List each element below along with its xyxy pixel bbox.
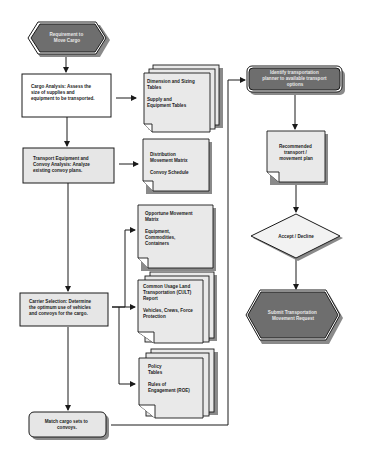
edge-carrier-selection-to-opportune-matrix [112,230,135,307]
node-cult-report[interactable]: Common Usage Land Transportation (CULT) … [138,272,217,343]
node-distribution-matrix[interactable]: Distribution Movement Matrix Convoy Sche… [143,139,212,194]
node-start[interactable]: Requirement to Move Cargo [28,22,110,57]
node-cargo-analysis[interactable]: Cargo Analysis: Assess the size of suppl… [22,74,111,117]
node-recommended-plan-label: Recommended transport / movement plan [279,144,313,161]
node-dimension-tables[interactable]: Dimension and Sizing Tables Supply and E… [144,65,223,132]
node-identify-planner[interactable]: Identify transportation planner to avail… [247,66,345,95]
node-carrier-selection[interactable]: Carrier Selection: Determine the optimum… [20,293,108,326]
flowchart: Requirement to Move Cargo Cargo Analysis… [0,0,365,463]
node-start-label: Requirement to Move Cargo [50,32,85,43]
edge-carrier-selection-to-policy-tables [119,307,135,384]
node-transport-equipment[interactable]: Transport Equipment and Convoy Analysis:… [23,148,114,183]
node-submit-request-label: Submit Transportation Movement Request [268,310,318,321]
node-accept-decline[interactable]: Accept / Decline [251,214,343,261]
node-match-cargo[interactable]: Match cargo sets to convoys. [29,412,109,440]
node-carrier-selection-label: Carrier Selection: Determine the optimum… [29,299,92,316]
node-accept-decline-label: Accept / Decline [278,234,314,239]
node-submit-request[interactable]: Submit Transportation Movement Request [246,290,343,344]
node-opportune-matrix[interactable]: Opportune Movement Matrix Equipment, Com… [138,205,216,271]
node-policy-tables[interactable]: Policy Tables Rules of Engagement (ROE) [139,349,218,418]
node-recommended-plan[interactable]: Recommended transport / movement plan [267,131,328,185]
